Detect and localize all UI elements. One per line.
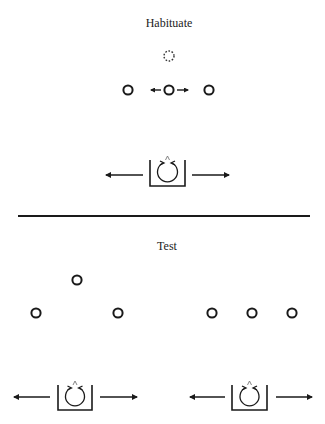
diagram-canvas: Habituate Test	[0, 0, 325, 424]
habituate-title: Habituate	[146, 16, 193, 30]
agent-test-left	[14, 381, 137, 410]
object-center	[247, 308, 256, 317]
object-left	[31, 308, 40, 317]
test-config-left	[14, 275, 137, 410]
caret-icon	[166, 156, 170, 160]
agent-loop-icon	[66, 388, 85, 406]
object-right	[113, 308, 122, 317]
object-right	[204, 85, 213, 94]
caret-icon	[248, 381, 252, 385]
test-title: Test	[157, 239, 177, 253]
agent-habituate	[106, 156, 229, 186]
object-left	[123, 85, 132, 94]
agent-loop-icon	[158, 163, 178, 182]
agent-test-right	[190, 381, 312, 410]
habituate-section: Habituate	[106, 16, 229, 186]
object-displaced	[72, 275, 81, 284]
caret-icon	[73, 381, 77, 385]
agent-loop-icon	[240, 388, 259, 406]
object-right	[287, 308, 296, 317]
dashed-object-position	[164, 51, 174, 61]
object-left	[207, 308, 216, 317]
test-section: Test	[14, 239, 312, 410]
object-center-moving	[164, 85, 173, 94]
test-config-right	[190, 308, 312, 410]
